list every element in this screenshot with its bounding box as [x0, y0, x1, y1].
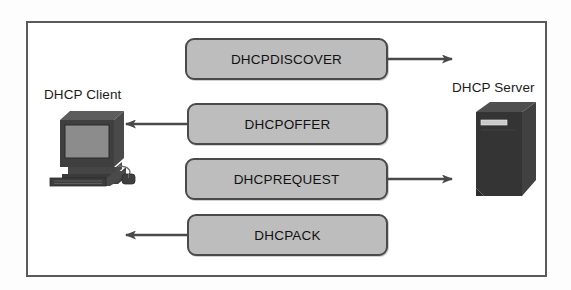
message-box-dhcprequest[interactable]: DHCPREQUEST: [185, 158, 388, 200]
message-label: DHCPDISCOVER: [231, 52, 342, 67]
message-label: DHCPOFFER: [245, 117, 331, 132]
message-label: DHCPACK: [254, 228, 320, 243]
dhcp-server-label: DHCP Server: [452, 80, 535, 95]
message-box-dhcpack[interactable]: DHCPACK: [187, 214, 388, 256]
server-tower-icon: [470, 100, 542, 202]
message-box-dhcpdiscover[interactable]: DHCPDISCOVER: [185, 38, 388, 80]
dhcp-client-label: DHCP Client: [44, 87, 121, 102]
message-box-dhcpoffer[interactable]: DHCPOFFER: [187, 103, 388, 145]
dhcp-sequence-diagram: DHCP Client: [0, 0, 571, 290]
message-label: DHCPREQUEST: [234, 172, 340, 187]
desktop-computer-icon: [40, 106, 146, 190]
